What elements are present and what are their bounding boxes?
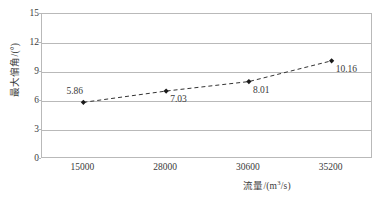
y-tick-label: 6 <box>17 95 39 105</box>
y-tick-mark <box>37 158 41 159</box>
x-axis-title-text: 流量/(m3/s) <box>243 181 291 191</box>
x-axis-title: 流量/(m3/s) <box>243 178 291 192</box>
data-point-marker <box>246 79 251 84</box>
point-value-label: 8.01 <box>253 85 270 95</box>
x-tick-label: 28000 <box>137 162 193 172</box>
x-tick-label: 35200 <box>303 162 359 172</box>
x-tick-label: 30600 <box>220 162 276 172</box>
series-line <box>83 61 331 103</box>
point-value-label: 10.16 <box>336 64 357 74</box>
chart-figure: 最大偏角/(°) 流量/(m3/s) 03691215 150002800030… <box>0 0 387 200</box>
point-value-label: 5.86 <box>66 86 83 96</box>
y-tick-label: 9 <box>17 66 39 76</box>
y-tick-label: 0 <box>17 153 39 163</box>
y-tick-label: 12 <box>17 37 39 47</box>
data-series <box>42 14 373 159</box>
y-tick-label: 15 <box>17 8 39 18</box>
x-tick-label: 15000 <box>54 162 110 172</box>
data-point-marker <box>164 88 169 93</box>
point-value-label: 7.03 <box>170 94 187 104</box>
data-point-marker <box>329 58 334 63</box>
y-tick-label: 3 <box>17 124 39 134</box>
data-point-marker <box>81 100 86 105</box>
plot-area: 5.867.038.0110.16 <box>41 13 372 158</box>
